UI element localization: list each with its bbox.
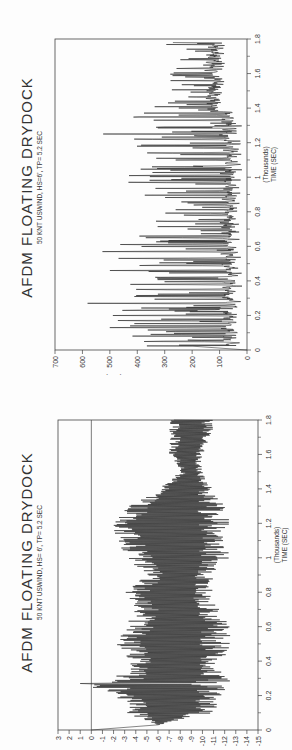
x-tick-label: 0.4 [265, 656, 272, 666]
x-tick-label: 0.6 [265, 622, 272, 632]
y-tick-label: -8 [177, 736, 184, 742]
mooring-force-series [88, 43, 247, 351]
x-tick-label: 1.8 [265, 415, 272, 425]
y-tick-label: -10 [199, 736, 206, 746]
x-tick-label: 0 [265, 728, 272, 732]
x-tick-label: 1 [254, 175, 261, 179]
x-tick-label: 0.6 [254, 241, 261, 251]
y-tick-label: -3 [121, 736, 128, 742]
y-tick-label: -13 [232, 736, 239, 746]
y-tick-label: 300 [161, 356, 168, 368]
y-tick-label: -12 [221, 736, 228, 746]
x-tick-label: 0.8 [254, 207, 261, 217]
mooring-force-plot: 00.20.40.60.811.21.41.61.801002003004005… [0, 0, 292, 375]
y-tick-label: 2 [66, 736, 73, 740]
x-tick-label: 0.4 [254, 276, 261, 286]
x-axis-units: (Thousands) [273, 527, 281, 564]
y-tick-label: 400 [134, 356, 141, 368]
x-tick-label: 1.2 [265, 518, 272, 528]
x-tick-label: 1.4 [265, 484, 272, 494]
y-tick-label: 500 [106, 356, 113, 368]
x-axis-units: (Thousands) [262, 146, 270, 183]
y-tick-label: 0 [88, 736, 95, 740]
x-tick-label: 1 [265, 556, 272, 560]
y-tick-label: 1 [77, 736, 84, 740]
y-tick-label: -5 [143, 736, 150, 742]
y-tick-label: -6 [155, 736, 162, 742]
y-tick-label: -15 [255, 736, 262, 746]
sway-plot: 00.20.40.60.811.21.41.61.83210-1-2-3-4-5… [0, 375, 292, 750]
y-tick-label: 3 [55, 736, 62, 740]
sway-chart: AFDM FLOATING DRYDOCK 50 KNT USWIND, HS=… [0, 375, 292, 750]
x-axis-title: TIME (SEC) [270, 147, 278, 182]
y-tick-label: -2 [110, 736, 117, 742]
mooring-force-chart: AFDM FLOATING DRYDOCK 50 KNT USWIND, HS=… [0, 0, 292, 375]
y-tick-label: -1 [99, 736, 106, 742]
y-tick-label: -4 [132, 736, 139, 742]
y-tick-label: -7 [166, 736, 173, 742]
x-tick-label: 0.2 [254, 310, 261, 320]
x-tick-label: 1.8 [254, 34, 261, 44]
y-tick-label: 700 [52, 356, 59, 368]
x-tick-label: 0 [254, 348, 261, 352]
y-tick-label: 200 [189, 356, 196, 368]
sway-series [80, 420, 230, 730]
y-tick-label: -14 [243, 736, 250, 746]
y-tick-label: 600 [79, 356, 86, 368]
y-tick-label: 100 [216, 356, 223, 368]
x-tick-label: 1.6 [254, 69, 261, 79]
x-tick-label: 1.6 [265, 449, 272, 459]
x-axis-title: TIME (SEC) [281, 527, 289, 562]
x-tick-label: 0.2 [265, 691, 272, 701]
x-tick-label: 1.2 [254, 138, 261, 148]
x-tick-label: 1.4 [254, 103, 261, 113]
x-tick-label: 0.8 [265, 587, 272, 597]
y-tick-label: 0 [244, 356, 251, 360]
y-tick-label: -11 [210, 736, 217, 746]
document-page: AFDM FLOATING DRYDOCK 50 KNT USWIND, HS=… [0, 0, 292, 750]
y-tick-label: -9 [188, 736, 195, 742]
